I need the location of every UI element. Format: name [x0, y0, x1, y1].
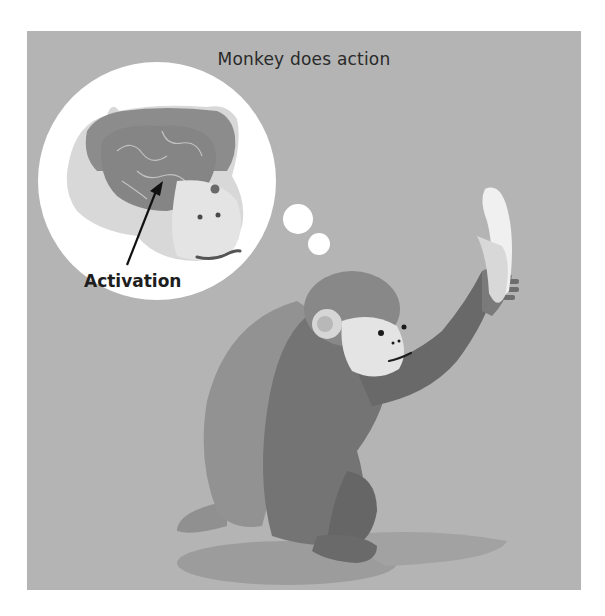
thought-bubble-small	[308, 233, 330, 255]
monkey-eye	[378, 330, 384, 336]
eye-inset	[211, 185, 220, 194]
monkey-eye	[402, 325, 407, 330]
eye-inset	[216, 213, 221, 218]
thought-bubble-medium	[283, 204, 313, 234]
figure-title: Monkey does action	[27, 49, 581, 69]
monkey-ear-inner	[317, 316, 333, 332]
activation-label: Activation	[84, 271, 181, 291]
eye-inset	[198, 215, 203, 220]
monkey-nostril	[398, 340, 401, 343]
monkey-face	[341, 317, 404, 377]
monkey-illustration	[27, 31, 581, 590]
figure-panel: Monkey does action Activation	[27, 31, 581, 590]
monkey-nostril	[392, 342, 395, 345]
